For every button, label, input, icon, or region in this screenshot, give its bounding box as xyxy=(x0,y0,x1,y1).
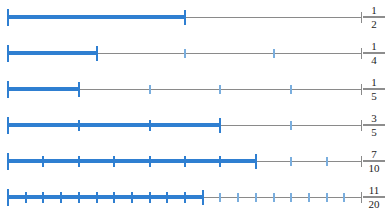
fraction-numerator: 1 xyxy=(363,41,385,53)
fraction-denominator: 2 xyxy=(363,18,385,30)
number-line-start-tick xyxy=(7,117,9,134)
division-tick xyxy=(326,157,328,166)
fraction-denominator: 5 xyxy=(363,90,385,102)
fraction-label: 12 xyxy=(363,5,385,30)
division-tick xyxy=(273,193,275,202)
division-tick xyxy=(149,156,151,167)
division-tick xyxy=(184,49,186,58)
number-line-fill xyxy=(8,87,79,91)
number-line-fill xyxy=(8,15,185,19)
division-tick xyxy=(290,85,292,94)
number-line-row: 15 xyxy=(0,72,389,108)
division-tick xyxy=(219,85,221,94)
division-tick xyxy=(96,192,98,203)
fraction-label: 14 xyxy=(363,41,385,66)
fraction-numerator: 1 xyxy=(363,77,385,89)
division-tick xyxy=(60,192,62,203)
number-line-row: 1120 xyxy=(0,180,389,216)
division-tick xyxy=(273,49,275,58)
division-tick xyxy=(290,157,292,166)
number-line-end-tick xyxy=(361,192,362,203)
number-line-fill xyxy=(8,51,97,55)
fraction-value-tick xyxy=(202,190,204,205)
number-line-start-tick xyxy=(7,81,9,98)
fraction-value-tick xyxy=(255,154,257,169)
division-tick xyxy=(255,193,257,202)
fraction-numerator: 7 xyxy=(363,149,385,161)
division-tick xyxy=(42,156,44,167)
fraction-denominator: 4 xyxy=(363,54,385,66)
number-line-row: 35 xyxy=(0,108,389,144)
fraction-value-tick xyxy=(78,82,80,97)
number-line-fill xyxy=(8,195,203,199)
number-line-row: 12 xyxy=(0,0,389,36)
number-line-start-tick xyxy=(7,153,9,170)
fraction-numerator: 3 xyxy=(363,113,385,125)
division-tick xyxy=(113,192,115,203)
number-line-end-tick xyxy=(361,156,362,167)
division-tick xyxy=(219,156,221,167)
division-tick xyxy=(113,156,115,167)
division-tick xyxy=(42,192,44,203)
fraction-denominator: 5 xyxy=(363,126,385,138)
division-tick xyxy=(343,193,345,202)
division-tick xyxy=(308,193,310,202)
fraction-numerator: 11 xyxy=(363,185,385,197)
division-tick xyxy=(131,192,133,203)
number-line-start-tick xyxy=(7,9,9,26)
fraction-numerator: 1 xyxy=(363,5,385,17)
division-tick xyxy=(290,121,292,130)
number-line-row: 14 xyxy=(0,36,389,72)
fraction-denominator: 10 xyxy=(363,162,385,174)
fraction-value-tick xyxy=(96,46,98,61)
fraction-value-tick xyxy=(184,10,186,25)
fraction-label: 15 xyxy=(363,77,385,102)
division-tick xyxy=(184,192,186,203)
division-tick xyxy=(78,156,80,167)
fraction-label: 1120 xyxy=(363,185,385,210)
number-line-end-tick xyxy=(361,12,362,23)
number-line-end-tick xyxy=(361,84,362,95)
number-line-end-tick xyxy=(361,48,362,59)
fraction-label: 35 xyxy=(363,113,385,138)
number-line-end-tick xyxy=(361,120,362,131)
division-tick xyxy=(149,192,151,203)
number-line-start-tick xyxy=(7,45,9,62)
division-tick xyxy=(290,193,292,202)
fraction-number-line-board: 121415357101120 xyxy=(0,0,389,218)
fraction-value-tick xyxy=(219,118,221,133)
number-line-fill xyxy=(8,123,220,127)
division-tick xyxy=(78,120,80,131)
division-tick xyxy=(149,120,151,131)
division-tick xyxy=(184,156,186,167)
division-tick xyxy=(326,193,328,202)
division-tick xyxy=(166,192,168,203)
fraction-label: 710 xyxy=(363,149,385,174)
division-tick xyxy=(149,85,151,94)
division-tick xyxy=(25,192,27,203)
division-tick xyxy=(78,192,80,203)
number-line-row: 710 xyxy=(0,144,389,180)
division-tick xyxy=(219,193,221,202)
number-line-start-tick xyxy=(7,189,9,206)
fraction-denominator: 20 xyxy=(363,198,385,210)
division-tick xyxy=(237,193,239,202)
